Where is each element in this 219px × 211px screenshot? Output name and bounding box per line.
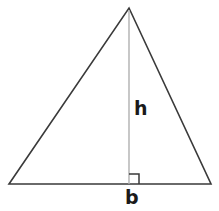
base-label: b	[125, 188, 139, 207]
triangle-figure	[0, 0, 219, 211]
right-angle-marker-icon	[129, 174, 139, 184]
triangle-diagram: h b	[0, 0, 219, 211]
triangle-outline	[9, 8, 211, 184]
height-label: h	[134, 99, 148, 118]
